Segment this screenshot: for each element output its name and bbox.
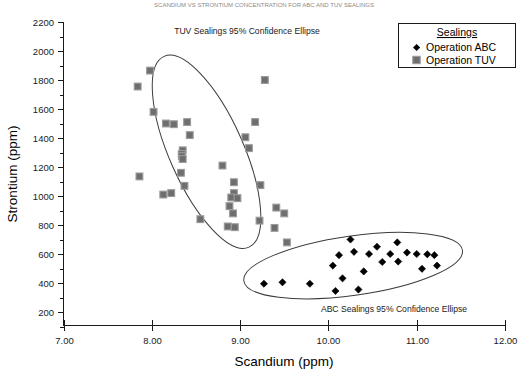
data-point-abc <box>365 250 372 257</box>
y-tick-label: 800 <box>38 220 54 231</box>
data-point-tuv <box>181 182 188 189</box>
square-marker-icon <box>413 56 420 63</box>
data-point-abc <box>355 286 362 293</box>
y-tick-label: 2200 <box>33 17 54 28</box>
y-tick-label: 600 <box>38 249 54 260</box>
data-point-abc <box>387 250 394 257</box>
annotation-tuv-ellipse: TUV Sealings 95% Confidence Ellipse <box>174 26 320 36</box>
data-point-tuv <box>234 195 241 202</box>
y-tick-label: 2000 <box>33 46 54 57</box>
data-point-tuv <box>178 169 185 176</box>
data-point-tuv <box>281 210 288 217</box>
data-point-abc <box>332 287 339 294</box>
data-point-abc <box>306 280 313 287</box>
data-point-tuv <box>224 223 231 230</box>
series-operation-tuv-points <box>134 67 290 246</box>
data-point-tuv <box>231 179 238 186</box>
y-tick-label: 1600 <box>33 104 54 115</box>
data-point-tuv <box>256 217 263 224</box>
data-point-abc <box>395 258 402 265</box>
data-point-tuv <box>147 67 154 74</box>
x-tick-label: 9.00 <box>231 335 250 346</box>
data-point-tuv <box>163 120 170 127</box>
y-tick-label: 200 <box>38 307 54 318</box>
data-point-tuv <box>150 109 157 116</box>
data-point-abc <box>350 248 357 255</box>
scatter-chart: SCANDIUM VS STRONTIUM CONCENTRATION FOR … <box>0 0 529 382</box>
data-point-abc <box>394 239 401 246</box>
data-point-tuv <box>184 119 191 126</box>
x-tick-label: 7.00 <box>55 335 74 346</box>
data-point-abc <box>279 279 286 286</box>
data-point-tuv <box>170 121 177 128</box>
x-tick-label: 8.00 <box>143 335 162 346</box>
x-axis-ticks: 7.008.009.0010.0011.0012.00 <box>55 320 517 346</box>
data-point-tuv <box>168 190 175 197</box>
legend-title: Sealings <box>437 26 477 38</box>
confidence-ellipse <box>240 221 467 311</box>
chart-top-title: SCANDIUM VS STRONTIUM CONCENTRATION FOR … <box>154 2 374 8</box>
data-point-abc <box>260 280 267 287</box>
x-axis-title: Scandium (ppm) <box>234 354 333 369</box>
legend-label-operation-abc: Operation ABC <box>426 41 496 53</box>
data-point-abc <box>335 252 342 259</box>
y-tick-label: 1200 <box>33 162 54 173</box>
y-axis-ticks: 2004006008001000120014001600180020002200 <box>33 17 64 328</box>
data-point-tuv <box>134 83 141 90</box>
annotation-abc-ellipse: ABC Sealings 95% Confidence Ellipse <box>321 304 467 314</box>
x-tick-label: 11.00 <box>406 335 429 346</box>
data-point-tuv <box>197 216 204 223</box>
data-point-abc <box>373 243 380 250</box>
data-point-tuv <box>231 224 238 231</box>
data-point-abc <box>339 275 346 282</box>
legend: Sealings Operation ABC Operation TUV <box>399 24 516 68</box>
data-point-abc <box>433 262 440 269</box>
x-tick-label: 12.00 <box>494 335 518 346</box>
legend-item-operation-abc[interactable]: Operation ABC <box>413 41 496 53</box>
y-tick-label: 1400 <box>33 133 54 144</box>
data-point-abc <box>413 250 420 257</box>
data-point-tuv <box>160 191 167 198</box>
data-point-abc <box>347 236 354 243</box>
data-point-tuv <box>179 156 186 163</box>
y-tick-label: 1000 <box>33 191 54 202</box>
data-point-tuv <box>252 119 259 126</box>
data-point-tuv <box>226 203 233 210</box>
data-point-tuv <box>186 132 193 139</box>
legend-item-operation-tuv[interactable]: Operation TUV <box>413 54 496 66</box>
data-point-tuv <box>257 182 264 189</box>
data-point-tuv <box>230 210 237 217</box>
data-point-tuv <box>242 134 249 141</box>
y-tick-label: 1800 <box>33 75 54 86</box>
data-point-abc <box>424 251 431 258</box>
data-point-tuv <box>271 225 278 232</box>
legend-label-operation-tuv: Operation TUV <box>426 54 496 66</box>
x-tick-label: 10.00 <box>317 335 341 346</box>
chart-canvas: SCANDIUM VS STRONTIUM CONCENTRATION FOR … <box>0 0 529 382</box>
data-point-abc <box>403 249 410 256</box>
y-tick-label: 400 <box>38 278 54 289</box>
data-point-abc <box>431 252 438 259</box>
data-point-abc <box>418 265 425 272</box>
data-point-tuv <box>261 77 268 84</box>
data-point-tuv <box>283 239 290 246</box>
data-point-abc <box>379 258 386 265</box>
data-point-tuv <box>273 204 280 211</box>
data-point-abc <box>360 268 367 275</box>
data-point-tuv <box>136 173 143 180</box>
data-point-tuv <box>219 162 226 169</box>
data-point-abc <box>329 262 336 269</box>
y-axis-title: Strontium (ppm) <box>5 126 20 223</box>
data-point-tuv <box>246 145 253 152</box>
